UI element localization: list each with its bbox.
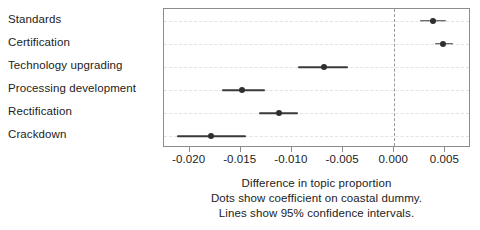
coefficient-point	[440, 41, 446, 47]
gridline	[164, 90, 469, 91]
gridline	[164, 113, 469, 114]
category-axis-labels: StandardsCertificationTechnology upgradi…	[0, 0, 160, 148]
caption-line: Dots show coefficient on coastal dummy.	[163, 191, 470, 206]
coefficient-plot	[163, 8, 470, 147]
coefficient-point	[276, 110, 282, 116]
coefficient-point	[208, 133, 214, 139]
x-axis-tick-label: 0.000	[379, 154, 408, 166]
x-axis-title: Difference in topic proportion	[163, 176, 470, 191]
caption-line: Lines show 95% confidence intervals.	[163, 206, 470, 221]
x-axis-tick	[291, 147, 292, 152]
x-axis-tick	[444, 147, 445, 152]
x-axis-tick-label: -0.005	[325, 154, 358, 166]
coefficient-point	[239, 87, 245, 93]
zero-reference-line	[394, 9, 395, 146]
category-label: Standards	[8, 14, 61, 26]
x-axis-tick	[342, 147, 343, 152]
category-label: Certification	[8, 37, 70, 49]
coefficient-point	[430, 18, 436, 24]
category-label: Technology upgrading	[8, 60, 123, 72]
gridline	[164, 44, 469, 45]
coefficient-point	[321, 64, 327, 70]
x-axis-tick-label: -0.015	[223, 154, 256, 166]
category-label: Crackdown	[8, 130, 66, 142]
plot-inner-area	[164, 9, 469, 146]
x-axis-tick	[240, 147, 241, 152]
chart-caption: Difference in topic proportionDots show …	[163, 176, 470, 221]
x-axis-tick	[189, 147, 190, 152]
x-axis-tick-label: -0.020	[172, 154, 205, 166]
x-axis-tick	[393, 147, 394, 152]
category-label: Rectification	[8, 107, 72, 119]
x-axis-tick-label: -0.010	[274, 154, 307, 166]
x-axis-tick-label: 0.005	[430, 154, 459, 166]
category-label: Processing development	[8, 83, 136, 95]
